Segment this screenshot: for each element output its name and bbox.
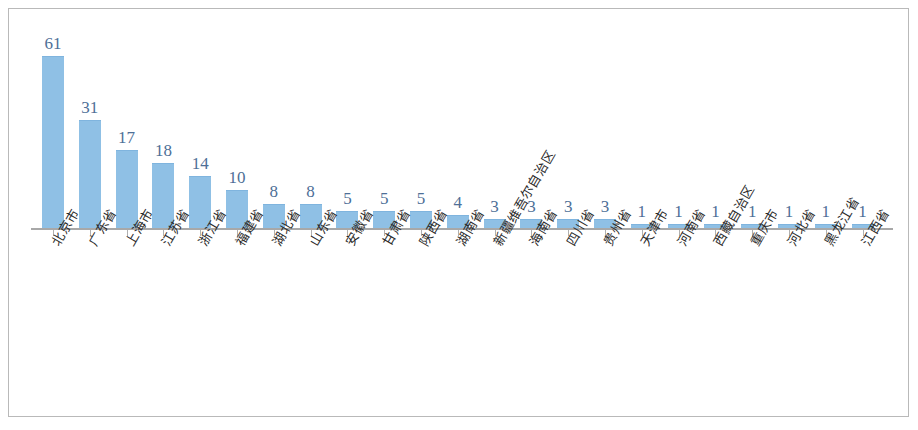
bar [116,150,138,228]
bar-group: 1 [661,58,697,228]
bar-value-label: 61 [35,35,71,53]
bar-value-label: 18 [145,142,181,160]
bar-group: 8 [256,58,292,228]
bar-group: 5 [329,58,365,228]
bar-group: 1 [771,58,807,228]
bar-group: 5 [403,58,439,228]
bar-value-label: 5 [403,190,439,208]
bar-group: 31 [72,58,108,228]
bar-group: 17 [109,58,145,228]
bar [42,56,64,228]
bar-group: 4 [440,58,476,228]
bar-group: 5 [366,58,402,228]
bar-group: 3 [477,58,513,228]
bar-group: 61 [35,58,71,228]
bar-value-label: 31 [72,99,108,117]
figure-frame: 61311718141088555433331111111 北京市广东省上海市江… [8,8,909,417]
bar-group: 3 [587,58,623,228]
bar-value-label: 10 [219,169,255,187]
bar-value-label: 4 [440,194,476,212]
bar-group: 8 [293,58,329,228]
bar-group: 1 [808,58,844,228]
bar-value-label: 5 [329,190,365,208]
bar-group: 14 [182,58,218,228]
plot-area: 61311718141088555433331111111 北京市广东省上海市江… [9,9,910,418]
chart-screenshot: 61311718141088555433331111111 北京市广东省上海市江… [0,0,918,430]
bar-group: 1 [624,58,660,228]
bar-group: 18 [145,58,181,228]
bar-group: 1 [697,58,733,228]
bar-value-label: 5 [366,190,402,208]
bar-value-label: 14 [182,155,218,173]
bar [79,120,101,228]
bar-value-label: 8 [293,183,329,201]
bar-group: 3 [550,58,586,228]
bar-value-label: 8 [256,183,292,201]
bar-group: 10 [219,58,255,228]
bar-value-label: 17 [109,129,145,147]
